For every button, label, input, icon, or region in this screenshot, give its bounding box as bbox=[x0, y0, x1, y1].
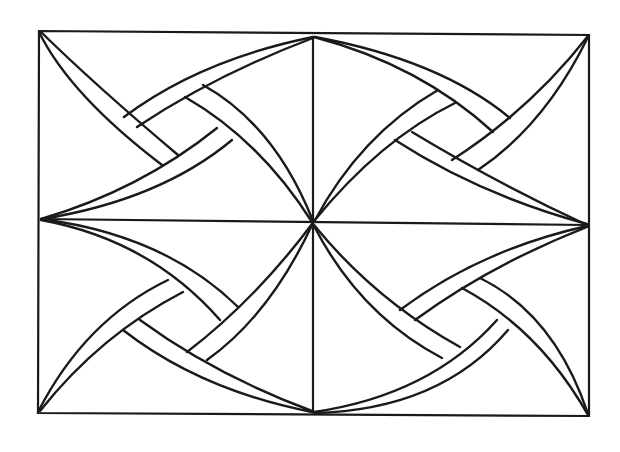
ribbon-edge bbox=[39, 32, 162, 165]
ribbon-edge bbox=[314, 37, 493, 132]
ribbon-edge bbox=[41, 219, 238, 307]
ribbon-edge bbox=[137, 38, 313, 127]
ribbon-edge bbox=[140, 320, 312, 411]
ribbon-tl-from-left bbox=[41, 128, 232, 219]
knot-svg bbox=[0, 0, 620, 452]
ribbon-tr-from-center bbox=[314, 90, 455, 222]
ribbon-br-from-center bbox=[314, 225, 460, 358]
ribbon-br-from-corner bbox=[462, 278, 588, 415]
ribbon-tr-from-right bbox=[395, 132, 587, 225]
ribbon-tl-from-top bbox=[124, 37, 313, 127]
ribbon-tr-from-top bbox=[314, 37, 510, 132]
ribbon-bl-from-corner bbox=[38, 280, 183, 412]
ribbon-edge bbox=[314, 225, 460, 347]
ribbon-edge bbox=[415, 227, 587, 320]
knot-drawing bbox=[0, 0, 620, 452]
ribbon-edge bbox=[187, 224, 312, 352]
ribbon-tr-from-corner bbox=[452, 36, 588, 170]
ribbon-edge bbox=[480, 278, 588, 414]
ribbon-tl-from-corner bbox=[39, 32, 178, 165]
ribbon-edge bbox=[40, 292, 183, 411]
ribbon-tl-from-center bbox=[185, 85, 313, 222]
ribbon-bl-from-center bbox=[187, 224, 312, 360]
ribbon-br-from-bottom bbox=[314, 320, 508, 413]
ribbon-edge bbox=[452, 36, 588, 160]
ribbon-bl-from-bottom bbox=[123, 320, 312, 412]
ribbon-edge bbox=[462, 288, 588, 415]
ribbon-edge bbox=[412, 132, 587, 225]
ribbon-bl-from-left bbox=[41, 219, 238, 320]
ribbon-edge bbox=[41, 128, 217, 219]
ribbon-br-from-right bbox=[400, 226, 587, 320]
ribbon-edge bbox=[314, 330, 508, 413]
